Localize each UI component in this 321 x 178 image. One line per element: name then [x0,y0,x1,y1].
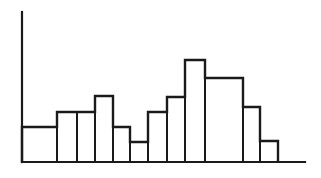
histogram-bar [167,97,185,162]
histogram-bar [260,141,278,162]
histogram-bar [77,112,95,162]
histogram-bar [205,78,243,162]
histogram-bar [130,142,148,162]
histogram-plot [0,0,321,178]
histogram-bar [22,127,57,162]
bars-group [22,60,278,162]
histogram-bar [148,112,167,162]
histogram-bar [57,112,77,162]
histogram-bar [113,127,130,162]
histogram-bar [185,60,205,162]
histogram-figure [0,0,321,178]
histogram-bar [243,107,260,162]
histogram-bar [95,96,113,162]
